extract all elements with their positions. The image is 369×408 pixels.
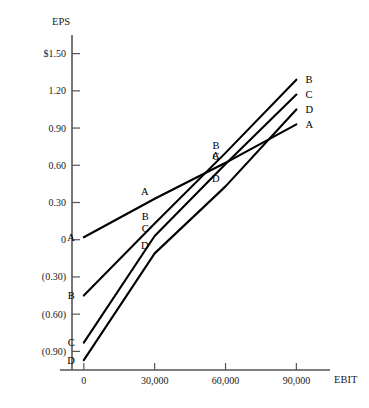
y-tick-label: 0.90 (49, 123, 67, 134)
x-tick-label: 60,000 (212, 375, 240, 386)
ebit-eps-chart: $1.501.200.900.600.300(0.30)(0.60)(0.90)… (0, 0, 369, 408)
series-point-label-c: C (68, 337, 75, 348)
x-ticks-group: 030,00060,00090,000 (81, 363, 310, 386)
series-point-label-c: C (305, 89, 312, 100)
x-axis-title: EBIT (334, 374, 358, 385)
y-axis-title: EPS (52, 16, 70, 27)
series-point-label-d: D (141, 240, 149, 251)
series-point-label-c: C (142, 223, 149, 234)
x-tick-label: 0 (81, 375, 86, 386)
series-point-label-a: A (141, 186, 149, 197)
series-lines-group (84, 80, 297, 360)
x-tick-label: 30,000 (141, 375, 169, 386)
y-tick-label: 0.60 (49, 160, 67, 171)
series-point-label-a: A (67, 232, 75, 243)
series-point-label-b: B (68, 290, 75, 301)
y-tick-label: 1.20 (49, 85, 67, 96)
series-line-d (84, 109, 297, 360)
y-tick-label: 0 (61, 234, 66, 245)
y-tick-label: (0.30) (42, 271, 66, 283)
y-tick-label: (0.60) (42, 309, 66, 321)
series-point-label-d: D (305, 104, 313, 115)
chart-canvas: $1.501.200.900.600.300(0.30)(0.60)(0.90)… (0, 0, 369, 408)
axes-group (60, 35, 330, 370)
y-tick-label: $1.50 (44, 48, 67, 59)
series-point-label-a: A (305, 119, 313, 130)
y-ticks-group: $1.501.200.900.600.300(0.30)(0.60)(0.90) (42, 48, 80, 358)
series-point-label-b: B (142, 211, 149, 222)
series-point-label-d: D (67, 355, 75, 366)
series-point-label-b: B (213, 140, 220, 151)
x-tick-label: 90,000 (283, 375, 311, 386)
series-point-label-c: C (213, 151, 220, 162)
series-line-b (84, 80, 297, 296)
y-tick-label: (0.90) (42, 346, 66, 358)
series-point-label-d: D (212, 173, 220, 184)
y-tick-label: 0.30 (49, 197, 67, 208)
series-point-label-b: B (305, 74, 312, 85)
